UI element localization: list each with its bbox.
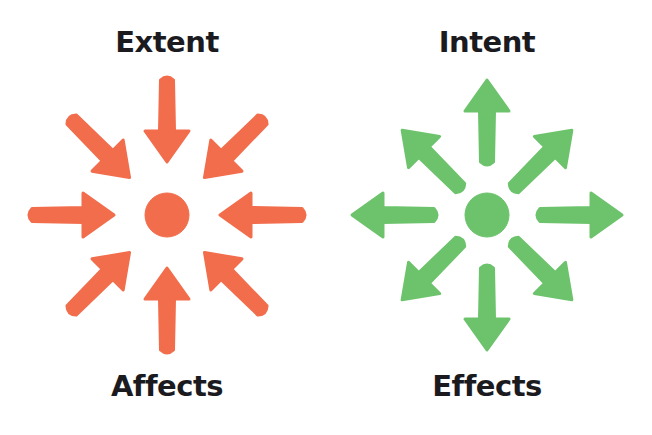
outward-arrows-group	[352, 80, 622, 350]
outward-arrow-to-right	[537, 193, 622, 237]
inward-arrow-from-top	[145, 77, 189, 162]
outward-arrow-to-top-left	[387, 115, 478, 206]
inward-arrow-from-bottom-right	[189, 237, 280, 328]
outward-center-dot	[465, 193, 509, 237]
inward-arrow-from-top-right	[189, 102, 280, 193]
inward-center-dot	[145, 193, 189, 237]
outward-arrow-to-left	[352, 193, 437, 237]
inward-arrow-from-bottom-left	[54, 237, 145, 328]
outward-arrow-to-bottom-left	[387, 224, 478, 315]
outward-arrow-to-bottom	[465, 265, 509, 350]
inward-arrows-group	[29, 77, 305, 353]
outward-arrow-to-top	[465, 80, 509, 165]
inward-arrow-from-left	[29, 193, 114, 237]
inward-arrow-from-top-left	[54, 102, 145, 193]
diagram-canvas	[0, 0, 652, 435]
outward-arrow-to-top-right	[496, 115, 587, 206]
inward-arrow-from-right	[220, 193, 305, 237]
outward-arrow-to-bottom-right	[496, 224, 587, 315]
inward-arrow-from-bottom	[145, 268, 189, 353]
